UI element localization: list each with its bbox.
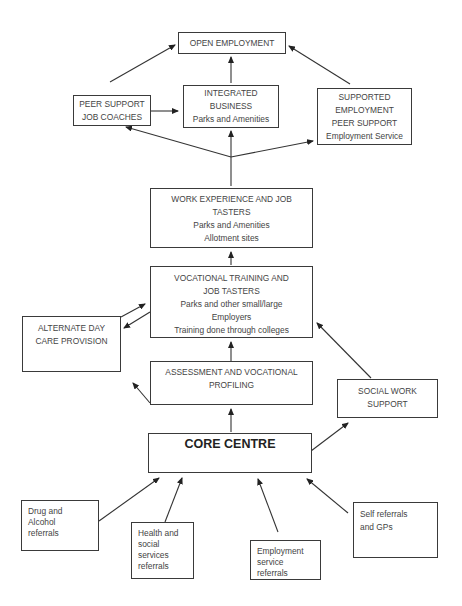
vocational-training-line-1: VOCATIONAL TRAINING AND [151,272,312,285]
health-social-line-2: social [138,539,193,550]
arrow-peer-to-open [110,45,175,82]
supported-employment-line-2: EMPLOYMENT [318,104,411,117]
integrated-business-line-3: Parks and Amenities [184,113,278,126]
assessment-box: ASSESSMENT AND VOCATIONAL PROFILING [150,361,313,405]
work-experience-line-4: Allotment sites [151,232,312,245]
health-social-line-3: services [138,550,193,561]
employment-service-referrals-box: Employment service referrals [250,540,321,580]
self-referrals-line-2: and GPs [360,521,437,534]
core-centre-label: CORE CENTRE [149,438,311,451]
self-referrals-box: Self referrals and GPs [353,502,438,558]
work-experience-box: WORK EXPERIENCE AND JOB TASTERS Parks an… [150,188,313,248]
social-work-line-1: SOCIAL WORK [338,385,437,398]
alternate-day-care-line-2: CARE PROVISION [23,335,120,348]
supported-employment-box: SUPPORTED EMPLOYMENT PEER SUPPORT Employ… [317,88,412,145]
peer-support-box: PEER SUPPORT JOB COACHES [73,95,151,126]
integrated-business-line-2: BUSINESS [184,100,278,113]
health-social-referrals-box: Health and social services referrals [131,522,194,579]
work-experience-line-1: WORK EXPERIENCE AND JOB [151,193,312,206]
integrated-business-box: INTEGRATED BUSINESS Parks and Amenities [183,85,279,128]
alternate-day-care-line-1: ALTERNATE DAY [23,322,120,335]
arrow-social-to-vocational [317,323,371,378]
vocational-training-line-3: Parks and other small/large [151,298,312,311]
supported-employment-line-1: SUPPORTED [318,91,411,104]
work-experience-line-3: Parks and Amenities [151,219,312,232]
supported-employment-line-4: Employment Service [318,130,411,143]
health-social-line-4: referrals [138,561,193,572]
integrated-business-line-1: INTEGRATED [184,87,278,100]
work-experience-line-2: TASTERS [151,206,312,219]
arrow-employment-to-core [258,479,278,532]
arrow-altday-to-vocational [121,304,145,317]
employment-service-line-3: referrals [257,568,320,579]
peer-support-line-1: PEER SUPPORT [74,98,150,111]
drug-alcohol-line-3: referrals [28,528,98,539]
arrow-self-to-core [307,479,348,513]
supported-employment-line-3: PEER SUPPORT [318,117,411,130]
open-employment-box: OPEN EMPLOYMENT [178,32,286,54]
arrow-assessment-to-altday [133,383,150,403]
arrow-health-to-core [165,478,182,522]
alternate-day-care-box: ALTERNATE DAY CARE PROVISION [22,316,121,372]
peer-support-line-2: JOB COACHES [74,111,150,124]
arrow-vocational-to-altday [124,312,150,328]
drug-alcohol-referrals-box: Drug and Alcohol referrals [21,500,99,551]
vocational-training-line-2: JOB TASTERS [151,285,312,298]
employment-service-line-1: Employment [257,546,320,557]
open-employment-label: OPEN EMPLOYMENT [179,37,285,50]
assessment-line-1: ASSESSMENT AND VOCATIONAL [151,366,312,379]
assessment-line-2: PROFILING [151,379,312,392]
vocational-training-line-5: Training done through colleges [151,324,312,337]
arrow-drug-to-core [99,478,159,521]
self-referrals-line-1: Self referrals [360,508,437,521]
social-work-line-2: SUPPORT [338,398,437,411]
health-social-line-1: Health and [138,528,193,539]
arrow-supported-to-open [289,46,350,84]
vocational-training-box: VOCATIONAL TRAINING AND JOB TASTERS Park… [150,266,313,338]
arrow-work-to-supported [231,141,313,157]
drug-alcohol-line-1: Drug and [28,506,98,517]
employment-service-line-2: service [257,557,320,568]
social-work-box: SOCIAL WORK SUPPORT [337,379,438,418]
core-centre-box: CORE CENTRE [148,433,312,473]
vocational-training-line-4: Employers [151,311,312,324]
drug-alcohol-line-2: Alcohol [28,517,98,528]
arrow-core-to-social [311,423,348,451]
arrow-work-to-peer [126,127,231,157]
